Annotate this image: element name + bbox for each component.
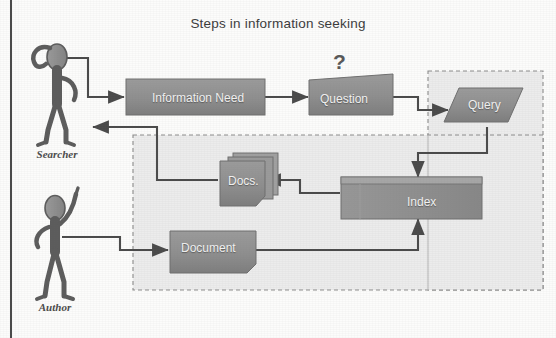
edge-searcher-to-information-need [62,58,124,97]
diagram-canvas [0,0,556,338]
node-information-need[interactable] [126,79,265,115]
persona-searcher [33,44,75,145]
question-mark-icon: ? [333,50,346,74]
persona-label-author: Author [10,301,100,313]
node-docs[interactable] [220,153,278,206]
node-document[interactable] [170,231,256,273]
persona-author [36,188,78,299]
node-index[interactable] [341,177,482,219]
persona-label-searcher: Searcher [12,148,102,160]
node-question[interactable] [309,74,393,115]
